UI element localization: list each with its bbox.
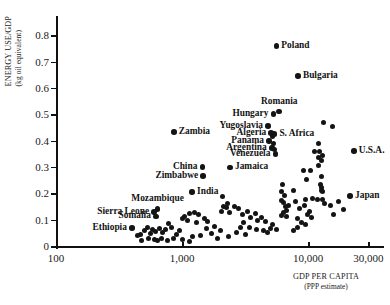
data-point bbox=[194, 220, 199, 225]
data-point bbox=[166, 221, 171, 226]
data-point bbox=[187, 239, 192, 244]
y-tick-label: 0.3 bbox=[35, 161, 49, 172]
point-label-poland: Poland bbox=[281, 41, 309, 50]
y-axis-title-unit: (kg oil equivalent) bbox=[14, 16, 23, 86]
data-point bbox=[308, 168, 313, 173]
data-point bbox=[320, 189, 325, 194]
energy-use-vs-gdp-scatter-chart: ENERGY USE/GDP (kg oil equivalent) GDP P… bbox=[0, 0, 390, 305]
y-tick-label: 0.6 bbox=[35, 82, 49, 93]
point-label-romania: Romania bbox=[261, 97, 297, 106]
data-point bbox=[220, 194, 225, 199]
data-point-ethiopia bbox=[129, 225, 135, 231]
y-tick-label: 0.1 bbox=[35, 214, 49, 225]
data-point bbox=[304, 177, 309, 182]
data-point bbox=[241, 220, 246, 225]
data-point bbox=[321, 120, 326, 125]
data-point bbox=[331, 212, 336, 217]
data-point bbox=[187, 211, 192, 216]
data-point-hungary bbox=[271, 111, 277, 117]
y-axis-line bbox=[56, 16, 58, 249]
x-tick-label: 1,000 bbox=[170, 253, 195, 264]
x-axis-title: GDP PER CAPITA (PPP estimate) bbox=[268, 272, 384, 292]
x-tick-label: 100 bbox=[48, 253, 65, 264]
data-point bbox=[227, 210, 232, 215]
x-axis-line bbox=[56, 246, 384, 248]
data-point-jamaica bbox=[227, 165, 233, 171]
data-point-bulgaria bbox=[295, 73, 301, 79]
point-label-zambia: Zambia bbox=[179, 127, 210, 136]
point-label-venezuela: Venezuela bbox=[230, 149, 270, 158]
data-point bbox=[185, 218, 190, 223]
point-label-zimbabwe: Zimbabwe bbox=[155, 171, 198, 180]
y-tick-label: 0 bbox=[44, 241, 50, 252]
data-point bbox=[243, 232, 248, 237]
data-point bbox=[165, 238, 170, 243]
y-tick bbox=[51, 220, 57, 222]
data-point bbox=[302, 203, 307, 208]
data-point bbox=[293, 199, 298, 204]
data-point bbox=[330, 124, 335, 129]
data-point bbox=[309, 215, 314, 220]
data-point bbox=[341, 207, 346, 212]
point-label-japan: Japan bbox=[355, 191, 380, 200]
x-tick bbox=[182, 242, 184, 248]
data-point bbox=[315, 197, 320, 202]
y-tick bbox=[51, 35, 57, 37]
data-point bbox=[204, 226, 209, 231]
y-tick bbox=[51, 141, 57, 143]
data-point bbox=[336, 199, 341, 204]
data-point bbox=[303, 197, 308, 202]
data-point bbox=[322, 201, 327, 206]
data-point bbox=[240, 212, 245, 217]
data-point bbox=[219, 209, 224, 214]
data-point-china bbox=[200, 164, 206, 170]
data-point bbox=[254, 227, 259, 232]
data-point bbox=[284, 208, 289, 213]
point-label-bulgaria: Bulgaria bbox=[303, 71, 338, 80]
data-point bbox=[265, 230, 270, 235]
point-label-hungary: Hungary bbox=[232, 110, 268, 119]
data-point bbox=[279, 213, 284, 218]
y-tick-label: 0.5 bbox=[35, 109, 49, 120]
data-point-zimbabwe bbox=[200, 173, 206, 179]
x-tick-label: 30,000 bbox=[353, 253, 383, 264]
data-point bbox=[328, 203, 333, 208]
data-point bbox=[319, 174, 324, 179]
point-label-jamaica: Jamaica bbox=[235, 163, 268, 172]
x-axis-title-unit: (PPP estimate) bbox=[268, 282, 384, 291]
data-point bbox=[319, 158, 324, 163]
y-tick bbox=[51, 114, 57, 116]
data-point bbox=[171, 236, 176, 241]
data-point-u-s-a bbox=[351, 148, 357, 154]
plot-area: 00.10.20.30.40.50.60.70.8 1001,00010,000… bbox=[56, 16, 384, 248]
data-point bbox=[180, 216, 185, 221]
data-point bbox=[263, 219, 268, 224]
data-point-japan bbox=[347, 193, 353, 199]
data-point bbox=[316, 141, 321, 146]
data-point-poland bbox=[274, 43, 280, 49]
data-point bbox=[238, 225, 243, 230]
data-point bbox=[215, 236, 220, 241]
y-axis-title: ENERGY USE/GDP (kg oil equivalent) bbox=[4, 16, 18, 136]
y-axis-title-main: ENERGY USE/GDP bbox=[4, 16, 14, 86]
x-tick-label: 10,000 bbox=[293, 253, 323, 264]
x-tick bbox=[308, 242, 310, 248]
data-point bbox=[226, 234, 231, 239]
y-tick-label: 0.2 bbox=[35, 188, 49, 199]
data-point bbox=[280, 182, 285, 187]
data-point bbox=[218, 228, 223, 233]
data-point bbox=[146, 236, 151, 241]
data-point bbox=[212, 224, 217, 229]
point-label-mozambique: Mozambique bbox=[131, 194, 184, 203]
data-point bbox=[209, 231, 214, 236]
data-point bbox=[202, 216, 207, 221]
data-point bbox=[303, 222, 308, 227]
data-point bbox=[284, 214, 289, 219]
data-point bbox=[274, 227, 279, 232]
data-point-zambia bbox=[171, 129, 177, 135]
x-tick bbox=[56, 242, 58, 248]
data-point bbox=[245, 209, 250, 214]
y-tick-label: 0.8 bbox=[35, 30, 49, 41]
data-point-romania bbox=[276, 109, 282, 115]
data-point-venezuela bbox=[273, 151, 279, 157]
